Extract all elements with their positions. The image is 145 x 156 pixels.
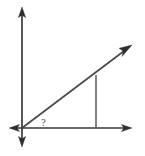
angle-marker-label: ? <box>41 117 46 128</box>
horizontal-axis <box>9 124 132 131</box>
figure-canvas: ? <box>0 0 145 156</box>
diagonal-ray <box>22 45 132 128</box>
diagonal-ray-arrow-icon <box>119 45 132 56</box>
geometry-figure: ? <box>0 0 145 156</box>
diagonal-ray-line <box>22 51 124 128</box>
